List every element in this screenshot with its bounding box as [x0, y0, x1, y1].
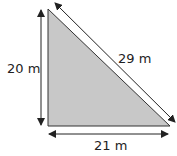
hypotenuse-label: 29 m	[118, 51, 151, 66]
height-label: 20 m	[7, 61, 40, 76]
base-label: 21 m	[94, 138, 127, 153]
triangle-diagram: 20 m 29 m 21 m	[0, 0, 177, 156]
right-triangle	[48, 9, 170, 126]
